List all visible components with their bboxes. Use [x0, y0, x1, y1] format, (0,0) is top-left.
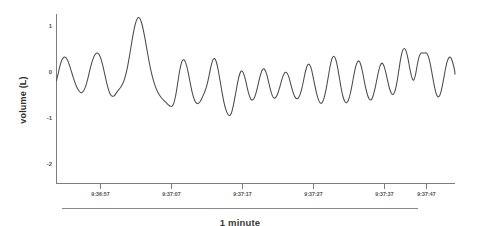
volume-time-chart: volume (L) 1 0 -1 -2 9:36:57 9:37:07 9:3…	[0, 0, 480, 226]
x-tick-label-1: 9:36:57	[91, 191, 110, 197]
y-tick-label-minus-1: -1	[47, 115, 53, 121]
spirometry-figure: volume (L) 1 0 -1 -2 9:36:57 9:37:07 9:3…	[0, 0, 480, 226]
y-tick-label-0: 0	[49, 69, 53, 75]
x-tick-label-6: 9:37:47	[417, 191, 436, 197]
x-tick-label-3: 9:37:17	[233, 191, 252, 197]
y-axis-title: volume (L)	[18, 76, 28, 124]
x-tick-label-4: 9:37:27	[304, 191, 323, 197]
x-tick-label-2: 9:37:07	[162, 191, 181, 197]
y-tick-label-minus-2: -2	[47, 161, 53, 167]
y-tick-label-1: 1	[49, 23, 53, 29]
x-tick-label-5: 9:37:37	[375, 191, 394, 197]
volume-trace-line	[57, 18, 456, 116]
scale-bar-caption: 1 minute	[220, 217, 261, 226]
